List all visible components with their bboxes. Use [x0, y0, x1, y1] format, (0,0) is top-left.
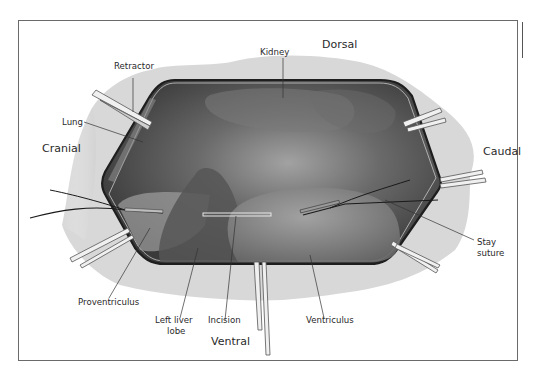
- orientation-dorsal-label: Dorsal: [322, 38, 357, 51]
- label-lung: Lung: [62, 117, 83, 127]
- orientation-caudal-label: Caudal: [483, 145, 521, 158]
- ventriculus-organ: [228, 187, 400, 262]
- label-left-liver-lobe-2: lobe: [167, 326, 185, 336]
- label-retractor: Retractor: [114, 61, 154, 71]
- label-left-liver-lobe-1: Left liver: [155, 315, 193, 325]
- orientation-ventral-label: Ventral: [211, 335, 250, 348]
- label-proventriculus: Proventriculus: [78, 297, 140, 307]
- label-stay-suture-1: Stay: [477, 237, 496, 247]
- label-ventriculus: Ventriculus: [306, 315, 354, 325]
- orientation-cranial-label: Cranial: [42, 142, 81, 155]
- label-stay-suture-2: suture: [477, 248, 504, 258]
- surgical-diagram: Dorsal Cranial Caudal Ventral Retractor …: [0, 0, 547, 385]
- label-kidney: Kidney: [260, 47, 289, 57]
- label-incision: Incision: [208, 315, 241, 325]
